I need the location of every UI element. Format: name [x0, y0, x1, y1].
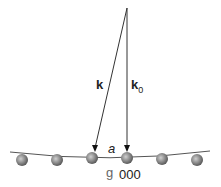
label-k: k [96, 78, 103, 91]
ewald-diagram: k k0 a g 000 [0, 0, 221, 187]
label-k0-sub: 0 [138, 85, 143, 95]
label-origin: 000 [119, 168, 141, 181]
label-g: g [106, 166, 113, 179]
diagram-graphic [0, 0, 221, 187]
label-k0: k0 [131, 78, 143, 91]
label-a: a [108, 142, 115, 155]
